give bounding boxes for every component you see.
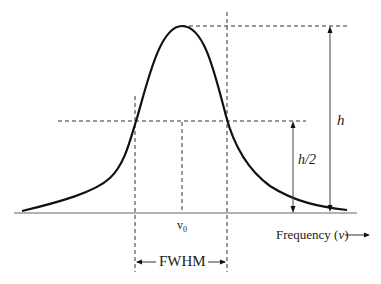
fwhm-diagram: h h/2 v0 Frequency (v) FWHM bbox=[0, 0, 381, 284]
fwhm-label: FWHM bbox=[159, 253, 206, 270]
center-subscript: 0 bbox=[183, 225, 187, 234]
half-h-label: h/2 bbox=[298, 152, 316, 168]
spectral-curve bbox=[22, 26, 347, 211]
x-axis-close: ) bbox=[344, 227, 348, 242]
x-axis-label: Frequency (v) bbox=[276, 227, 349, 243]
x-axis-text: Frequency ( bbox=[276, 227, 338, 242]
center-frequency-label: v0 bbox=[177, 218, 187, 234]
h-label: h bbox=[337, 112, 345, 129]
